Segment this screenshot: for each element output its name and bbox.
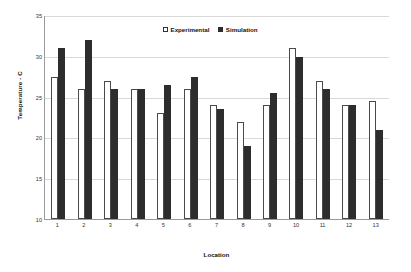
bar-experimental[interactable] (78, 89, 85, 219)
x-axis-tick-labels: 12345678910111213 (44, 222, 389, 234)
bar-groups (45, 16, 389, 219)
x-axis-tick-label: 4 (124, 222, 151, 234)
x-axis-tick-label: 7 (203, 222, 230, 234)
bar-simulation[interactable] (323, 89, 330, 219)
y-axis-tick-label: 30 (36, 54, 42, 60)
x-axis-tick-label: 9 (256, 222, 283, 234)
y-axis-tick-label: 10 (36, 217, 42, 223)
bar-experimental[interactable] (210, 105, 217, 219)
bar-experimental[interactable] (237, 122, 244, 219)
bar-group (177, 16, 203, 219)
bar-simulation[interactable] (376, 130, 383, 219)
x-axis-tick-label: 6 (177, 222, 204, 234)
bar-group (283, 16, 309, 219)
open-square-icon (163, 27, 168, 32)
legend-entry-simulation: Simulation (218, 26, 257, 33)
bar-group (336, 16, 362, 219)
x-axis-tick-label: 12 (336, 222, 363, 234)
x-axis-tick-label: 5 (150, 222, 177, 234)
bar-group (71, 16, 97, 219)
bar-group (204, 16, 230, 219)
bar-simulation[interactable] (111, 89, 118, 219)
x-axis-tick-label: 2 (71, 222, 98, 234)
bar-simulation[interactable] (244, 146, 251, 219)
bar-experimental[interactable] (263, 105, 270, 219)
bar-experimental[interactable] (316, 81, 323, 219)
chart-legend: Experimental Simulation (163, 26, 258, 33)
y-axis-tick-label: 25 (36, 95, 42, 101)
bar-simulation[interactable] (138, 89, 145, 219)
filled-square-icon (218, 27, 223, 32)
bar-simulation[interactable] (164, 85, 171, 219)
bar-group (230, 16, 256, 219)
y-axis-tick-label: 20 (36, 135, 42, 141)
y-axis-tick-label: 15 (36, 176, 42, 182)
legend-label-experimental: Experimental (171, 26, 210, 33)
bar-experimental[interactable] (369, 101, 376, 219)
legend-label-simulation: Simulation (226, 26, 258, 33)
bar-group (363, 16, 389, 219)
x-axis-tick-label: 1 (44, 222, 71, 234)
bar-experimental[interactable] (51, 77, 58, 219)
x-axis-tick-label: 11 (309, 222, 336, 234)
legend-entry-experimental: Experimental (163, 26, 209, 33)
bar-simulation[interactable] (270, 93, 277, 219)
x-axis-title: Location (44, 251, 389, 258)
bar-simulation[interactable] (217, 109, 224, 219)
x-axis-tick-label: 13 (362, 222, 389, 234)
bar-experimental[interactable] (157, 113, 164, 219)
plot-area (44, 16, 389, 220)
x-axis-tick-label: 3 (97, 222, 124, 234)
bar-simulation[interactable] (296, 57, 303, 219)
x-axis-tick-label: 10 (283, 222, 310, 234)
y-axis-tick-label: 35 (36, 13, 42, 19)
bar-group (151, 16, 177, 219)
y-axis-tick-labels: 101520253035 (22, 16, 42, 220)
bar-chart: Temperature - C 101520253035 12345678910… (0, 0, 411, 272)
x-axis-tick-label: 8 (230, 222, 257, 234)
bar-experimental[interactable] (289, 48, 296, 219)
bar-simulation[interactable] (349, 105, 356, 219)
bar-group (310, 16, 336, 219)
bar-simulation[interactable] (191, 77, 198, 219)
bar-group (45, 16, 71, 219)
bar-simulation[interactable] (58, 48, 65, 219)
bar-group (124, 16, 150, 219)
bar-simulation[interactable] (85, 40, 92, 219)
bar-experimental[interactable] (342, 105, 349, 219)
bar-group (257, 16, 283, 219)
bar-group (98, 16, 124, 219)
bar-experimental[interactable] (131, 89, 138, 219)
bar-experimental[interactable] (104, 81, 111, 219)
bar-experimental[interactable] (184, 89, 191, 219)
